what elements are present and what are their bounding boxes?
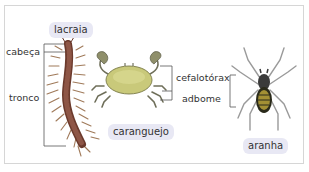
label-lacraia: lacraia bbox=[49, 22, 93, 38]
label-abdome: adbome bbox=[182, 93, 221, 104]
label-cefalotorax: cefalotórax bbox=[176, 72, 230, 83]
spider-icon bbox=[232, 48, 296, 130]
crab-bracket bbox=[160, 66, 172, 100]
spider-bracket bbox=[230, 75, 236, 107]
label-tronco: tronco bbox=[9, 92, 39, 103]
label-aranha: aranha bbox=[243, 138, 288, 154]
label-cabeca: cabeça bbox=[6, 46, 40, 57]
label-caranguejo: caranguejo bbox=[108, 124, 174, 140]
centipede-icon bbox=[47, 37, 99, 156]
crab-icon bbox=[92, 52, 166, 107]
